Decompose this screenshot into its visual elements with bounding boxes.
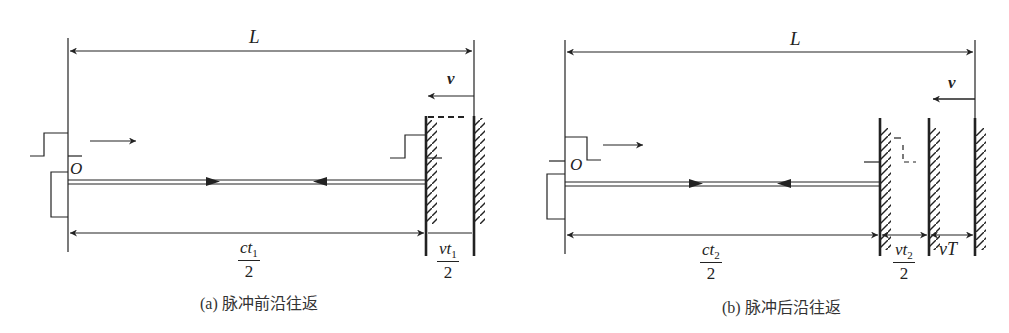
dim-ct1-over-2: ct1 2 — [238, 239, 260, 280]
length-label-b: L — [790, 29, 801, 48]
panel-b — [547, 40, 986, 256]
velocity-label-b: v — [948, 74, 956, 91]
pulse-emitted — [30, 133, 68, 156]
panel-a — [30, 38, 485, 256]
caption-b: (b) 脉冲后沿往返 — [722, 294, 841, 318]
dim-ct2-over-2: ct2 2 — [700, 241, 722, 282]
pulse-received — [51, 172, 68, 217]
dim-vT: vT — [939, 240, 957, 258]
caption-a: (a) 脉冲前沿往返 — [200, 290, 318, 314]
length-label-a: L — [249, 27, 260, 46]
origin-label-a: O — [70, 160, 82, 177]
origin-label-b: O — [570, 156, 582, 173]
dim-vt2-over-2: vt2 2 — [893, 241, 915, 282]
diagram-canvas — [0, 0, 1009, 333]
velocity-label-a: v — [447, 70, 455, 87]
pulse-received — [547, 174, 565, 219]
dim-vt1-over-2: vt1 2 — [437, 240, 459, 281]
